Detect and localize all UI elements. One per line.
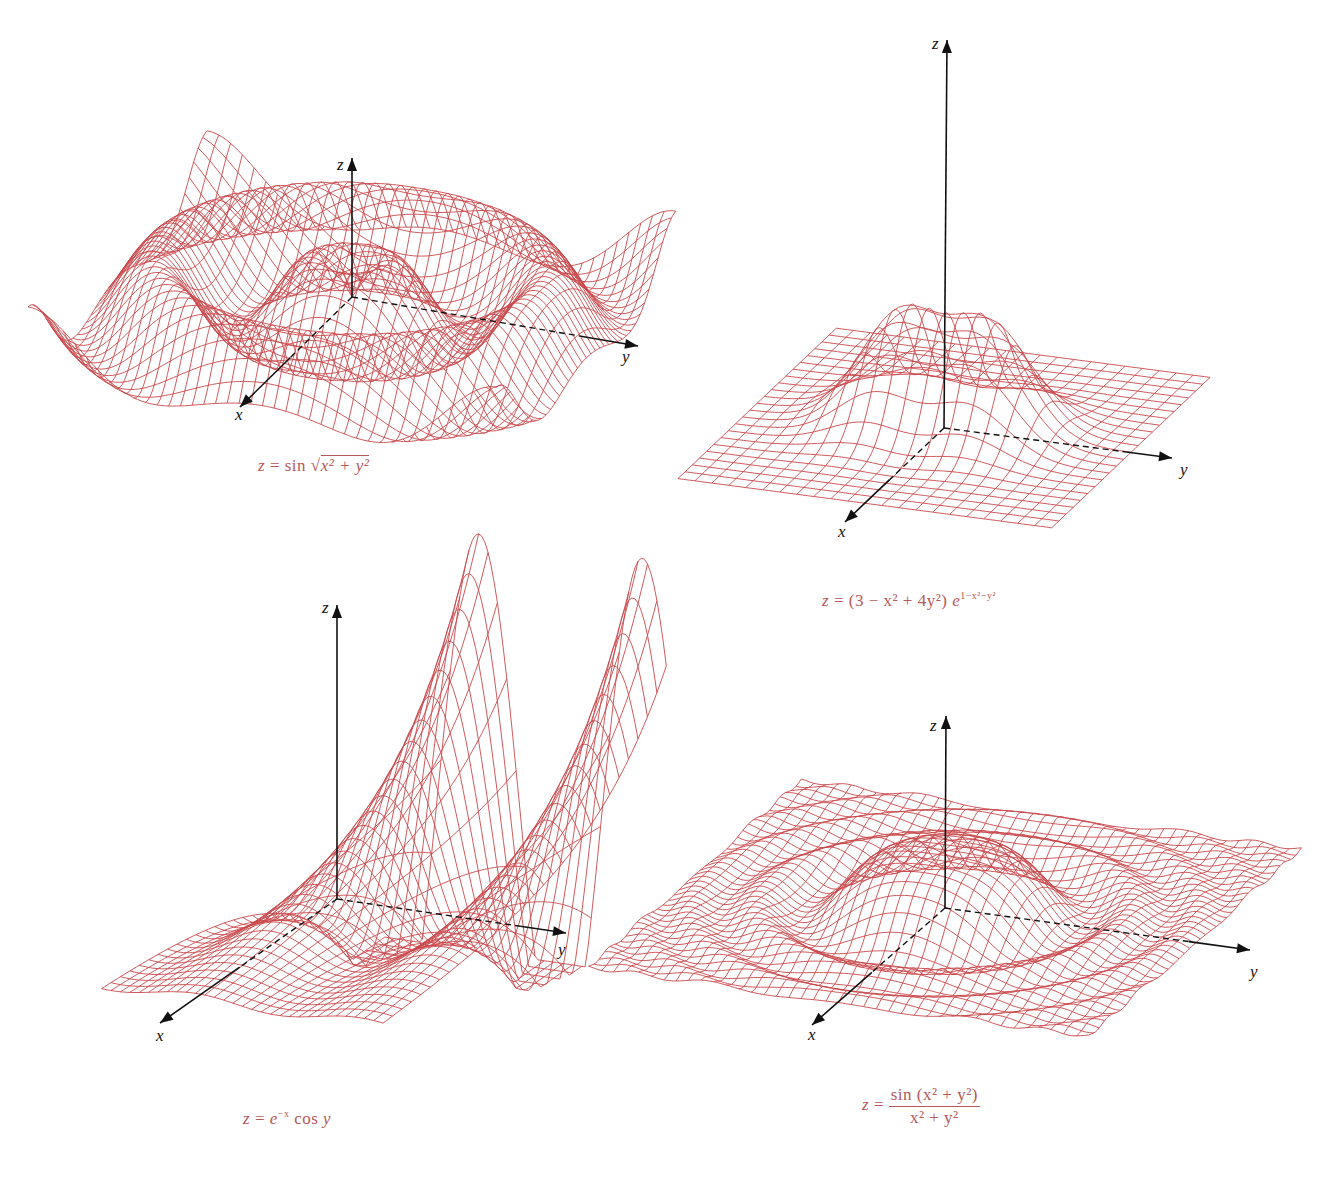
axis-label-z: z xyxy=(930,716,937,736)
caption-sinc-radial: z = sin (x² + y²) x² + y² xyxy=(862,1085,980,1128)
surface-sinc-radial xyxy=(0,0,1329,1184)
caption-eq: = xyxy=(874,1095,884,1114)
caption-lhs: z xyxy=(862,1095,869,1114)
axis-label-y: y xyxy=(1250,962,1258,982)
axis-label-x: x xyxy=(808,1025,816,1045)
caption-fraction: sin (x² + y²) x² + y² xyxy=(889,1085,980,1128)
caption-numerator: sin (x² + y²) xyxy=(889,1085,980,1107)
caption-denominator: x² + y² xyxy=(889,1107,980,1128)
plot-sinc-radial: z y x z = sin (x² + y²) x² + y² xyxy=(0,0,1329,1184)
